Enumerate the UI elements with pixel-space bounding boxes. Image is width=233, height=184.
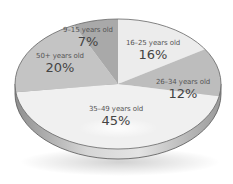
slice-category: 50+ years old (36, 53, 84, 60)
slice-percent: 7% (63, 35, 113, 48)
slice-percent: 16% (126, 48, 180, 61)
slice-category: 9–15 years old (63, 27, 113, 34)
slice-category: 16–25 years old (126, 40, 180, 47)
slice-label-26-34: 26–34 years old 12% (156, 79, 210, 100)
slice-label-9-15: 9–15 years old 7% (63, 27, 113, 48)
slice-label-16-25: 16–25 years old 16% (126, 40, 180, 61)
slice-percent: 12% (156, 87, 210, 100)
slice-label-50plus: 50+ years old 20% (36, 53, 84, 74)
slice-percent: 20% (36, 61, 84, 74)
slice-label-35-49: 35–49 years old 45% (89, 106, 143, 127)
slice-category: 35–49 years old (89, 106, 143, 113)
slice-percent: 45% (89, 114, 143, 127)
slice-category: 26–34 years old (156, 79, 210, 86)
